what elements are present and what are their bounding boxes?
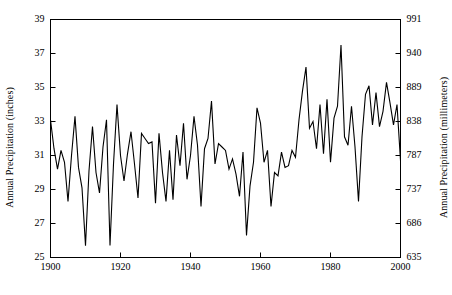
y-tick-label-right: 991 — [407, 13, 433, 24]
x-tick-label: 1920 — [101, 261, 141, 272]
tick-marks — [51, 54, 401, 258]
y-tick-label-left: 33 — [23, 115, 45, 126]
y-tick-label-right: 737 — [407, 183, 433, 194]
y-tick-label-left: 39 — [23, 13, 45, 24]
x-tick-label: 1960 — [241, 261, 281, 272]
y-tick-label-left: 29 — [23, 183, 45, 194]
y-tick-label-left: 35 — [23, 81, 45, 92]
y-tick-label-left: 37 — [23, 47, 45, 58]
y-tick-label-right: 686 — [407, 217, 433, 228]
x-tick-label: 1980 — [311, 261, 351, 272]
y-tick-label-right: 940 — [407, 47, 433, 58]
y-tick-label-right: 787 — [407, 149, 433, 160]
precipitation-chart-figure: Annual Precipitation (inches) Annual Pre… — [0, 0, 452, 295]
x-tick-label: 2000 — [381, 261, 421, 272]
y-tick-label-right: 838 — [407, 115, 433, 126]
x-tick-label: 1940 — [171, 261, 211, 272]
x-tick-label: 1900 — [31, 261, 71, 272]
axes-frame — [51, 20, 401, 258]
y-tick-label-right: 889 — [407, 81, 433, 92]
precipitation-line — [51, 45, 401, 246]
y-tick-label-left: 31 — [23, 149, 45, 160]
y-tick-label-left: 27 — [23, 217, 45, 228]
plot-canvas — [0, 0, 452, 295]
plot-border — [51, 20, 401, 258]
